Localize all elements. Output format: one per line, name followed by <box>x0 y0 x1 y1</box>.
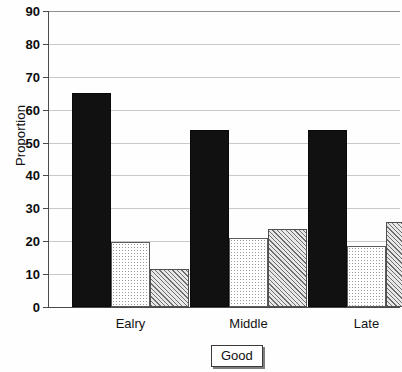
legend-box: Good <box>211 345 263 367</box>
bar-ealry-solid <box>72 93 111 307</box>
bar-middle-hatched <box>268 229 307 307</box>
bar-ealry-dotted <box>111 242 150 307</box>
y-tick-label: 70 <box>26 69 40 84</box>
y-tick-label: 30 <box>26 201 40 216</box>
y-tick-label: 80 <box>26 36 40 51</box>
y-tick-label: 10 <box>26 267 40 282</box>
bar-ealry-hatched <box>150 269 189 307</box>
y-tick-label: 60 <box>26 102 40 117</box>
bar-late-hatched <box>386 222 402 307</box>
y-tick-label: 90 <box>26 4 40 19</box>
x-axis-label-ealry: Ealry <box>116 316 146 331</box>
y-tick-label: 0 <box>33 300 40 315</box>
bars-group <box>48 11 400 308</box>
x-axis-label-middle: Middle <box>229 316 267 331</box>
chart-figure: Proportion 0102030405060708090 EalryMidd… <box>0 0 402 372</box>
legend-label: Good <box>221 348 253 363</box>
y-tick-label: 20 <box>26 234 40 249</box>
plot-area: 0102030405060708090 <box>48 11 400 308</box>
x-axis-label-late: Late <box>354 316 379 331</box>
bar-late-dotted <box>347 246 386 307</box>
bar-late-solid <box>308 130 347 307</box>
bar-middle-solid <box>190 130 229 307</box>
y-tick-label: 40 <box>26 168 40 183</box>
y-tick-label: 50 <box>26 135 40 150</box>
bar-middle-dotted <box>229 238 268 307</box>
